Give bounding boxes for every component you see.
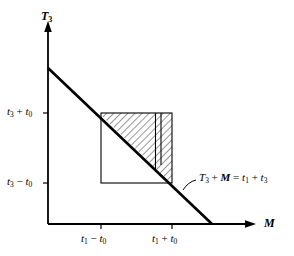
constraint-line bbox=[48, 68, 212, 224]
equation-rhs2-sub: 3 bbox=[264, 176, 268, 185]
constraint-equation-label: T3 + M = t1 + t3 bbox=[199, 172, 267, 185]
y-tick-lower-term-sub: 0 bbox=[29, 180, 33, 189]
annotation-leader-line bbox=[183, 180, 196, 190]
x-axis-arrowhead bbox=[245, 220, 256, 228]
x-axis-label: M bbox=[264, 217, 275, 229]
x-tick-left-term-sub: 0 bbox=[103, 237, 107, 246]
hatched-region bbox=[101, 113, 174, 186]
y-tick-label-lower: t3 − t0 bbox=[7, 176, 32, 189]
x-tick-label-right: t1 + t0 bbox=[152, 233, 177, 246]
y-tick-label-upper: t3 + t0 bbox=[7, 106, 32, 119]
y-axis-label-sub: 3 bbox=[48, 15, 52, 24]
x-axis-label-base: M bbox=[264, 216, 275, 230]
y-tick-upper-term-sub: 0 bbox=[29, 110, 33, 119]
equation-m-var: M bbox=[221, 171, 231, 183]
y-axis-label: T3 bbox=[41, 10, 52, 24]
x-tick-right-term-sub: 0 bbox=[174, 237, 178, 246]
figure-container: T3 M t3 + t0 t3 − t0 t1 − t0 t1 + t0 T3 … bbox=[0, 0, 294, 256]
x-tick-label-left: t1 − t0 bbox=[81, 233, 106, 246]
diagram-canvas bbox=[0, 0, 294, 256]
